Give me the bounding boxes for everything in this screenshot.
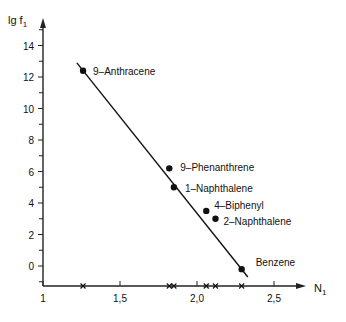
data-point-label: 2–Naphthalene (223, 216, 291, 227)
data-point (212, 216, 218, 222)
data-point-label: 1–Naphthalene (185, 183, 253, 194)
y-tick-label: 2 (28, 230, 34, 241)
data-point (203, 208, 209, 214)
data-point-label: 9–Phenanthrene (180, 162, 254, 173)
x-tick-label: 2,5 (267, 293, 281, 304)
y-tick-label: 0 (28, 261, 34, 272)
y-tick-label: 8 (28, 135, 34, 146)
data-points: 9–Anthracene9–Phenanthrene1–Naphthalene4… (80, 66, 296, 273)
y-tick-label: 4 (28, 198, 34, 209)
y-tick-label: 6 (28, 167, 34, 178)
y-axis-title: lg f1 (8, 14, 28, 29)
data-point-label: Benzene (256, 257, 296, 268)
y-tick-label: 14 (23, 41, 35, 52)
data-point (166, 165, 172, 171)
data-point (80, 68, 86, 74)
y-axis-arrow-icon (40, 18, 46, 28)
x-tick-label: 1 (40, 293, 46, 304)
y-tick-label: 12 (23, 72, 35, 83)
scatter-chart: 0246810121411,52,02,5 9–Anthracene9–Phen… (0, 0, 346, 322)
x-tick-label: 2,0 (190, 293, 204, 304)
axes (40, 18, 306, 289)
x-axis-title: N1 (314, 282, 327, 297)
y-tick-label: 10 (23, 104, 35, 115)
data-point (171, 184, 177, 190)
x-tick-label: 1,5 (113, 293, 127, 304)
x-axis-arrow-icon (296, 283, 306, 289)
data-point-label: 4–Biphenyl (214, 200, 263, 211)
data-point-label: 9–Anthracene (93, 66, 156, 77)
data-point (238, 266, 244, 272)
